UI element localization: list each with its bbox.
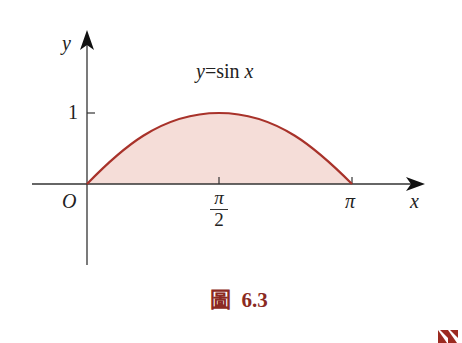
func-eq: = bbox=[205, 60, 216, 82]
x-tick-label-pi: π bbox=[345, 190, 355, 213]
fast-forward-icon[interactable] bbox=[438, 330, 458, 343]
func-y: y bbox=[196, 60, 205, 82]
figure-caption: 圖 6.3 bbox=[210, 283, 268, 313]
pi-half-denominator: 2 bbox=[208, 210, 230, 230]
origin-label: O bbox=[62, 190, 76, 213]
pi-half-numerator: π bbox=[208, 188, 230, 208]
func-x: x bbox=[245, 60, 254, 82]
x-axis-label: x bbox=[410, 190, 419, 213]
func-sin: sin bbox=[216, 60, 239, 82]
y-axis-label: y bbox=[62, 32, 71, 55]
x-tick-label-pi-half: π 2 bbox=[208, 188, 230, 230]
y-tick-label-1: 1 bbox=[68, 101, 78, 124]
caption-prefix: 圖 bbox=[210, 288, 231, 312]
function-label: y=sin x bbox=[196, 60, 253, 83]
caption-number: 6.3 bbox=[242, 288, 268, 312]
